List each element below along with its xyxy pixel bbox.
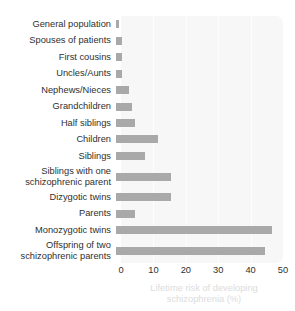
x-tick-label: 20 [181,265,191,275]
bar [116,119,135,127]
bar-track [116,65,295,81]
bar [116,173,171,181]
category-label: Half siblings [0,118,116,129]
bar-track [116,98,295,114]
bar-row: Siblings with one schizophrenic parent [0,164,295,189]
bar-track [116,205,295,221]
bar-row: Half siblings [0,115,295,131]
bar-track [116,131,295,147]
bar-row: Parents [0,205,295,221]
category-label: Dizygotic twins [0,192,116,203]
bar-row: General population [0,16,295,32]
bar [116,226,272,234]
category-label: Nephews/Nieces [0,85,116,96]
category-label: Offspring of two schizophrenic parents [0,240,116,261]
bar [116,53,122,61]
bar [116,86,129,94]
category-label: Grandchildren [0,101,116,112]
bar-track [116,82,295,98]
category-label: Uncles/Aunts [0,68,116,79]
bar-chart: General populationSpouses of patientsFir… [0,0,295,311]
x-tick-label: 0 [118,265,123,275]
category-label: Siblings [0,151,116,162]
category-label: Siblings with one schizophrenic parent [0,166,116,187]
bar-track [116,32,295,48]
bar-row: Siblings [0,148,295,164]
category-label: Parents [0,208,116,219]
category-label: Spouses of patients [0,35,116,46]
bar [116,135,158,143]
bar-track [116,16,295,32]
category-label: General population [0,19,116,30]
bar-track [116,148,295,164]
bar-row: Grandchildren [0,98,295,114]
x-tick-label: 50 [278,265,288,275]
bar-track [116,115,295,131]
bar-rows: General populationSpouses of patientsFir… [0,16,295,263]
bar-track [116,222,295,238]
bar [116,193,171,201]
bar-row: Uncles/Aunts [0,65,295,81]
category-label: Monozygotic twins [0,225,116,236]
bar [116,210,135,218]
bar-row: Monozygotic twins [0,222,295,238]
bar [116,37,122,45]
x-axis: 01020304050 [121,265,283,281]
x-tick-label: 30 [213,265,223,275]
x-axis-caption: Lifetime risk of developing schizophreni… [118,283,290,305]
bar-track [116,49,295,65]
category-label: Children [0,134,116,145]
bar-track [116,238,295,263]
bar-track [116,189,295,205]
bar [116,70,122,78]
bar [116,103,132,111]
bar-row: Nephews/Nieces [0,82,295,98]
bar [116,247,265,255]
bar-track [116,164,295,189]
x-tick-label: 10 [148,265,158,275]
bar-row: Spouses of patients [0,32,295,48]
bar-row: Dizygotic twins [0,189,295,205]
category-label: First cousins [0,52,116,63]
x-tick-label: 40 [245,265,255,275]
bar-row: First cousins [0,49,295,65]
bar-row: Offspring of two schizophrenic parents [0,238,295,263]
bar-row: Children [0,131,295,147]
bar [116,20,119,28]
bar [116,152,145,160]
